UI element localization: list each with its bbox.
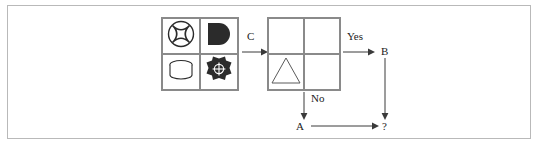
shape-grid-cell-top-right xyxy=(304,18,340,54)
half-disc-icon xyxy=(203,19,235,53)
edge-yes-arrow xyxy=(343,47,375,57)
edge-b-to-question-arrow xyxy=(380,58,390,120)
node-question: ? xyxy=(382,121,387,132)
edge-yes-label: Yes xyxy=(347,31,363,42)
shape-grid-cell-bottom-right xyxy=(304,54,340,90)
edge-c-label: C xyxy=(247,31,254,42)
edge-no-arrow xyxy=(299,92,309,120)
gear-target-icon xyxy=(204,56,234,88)
shape-grid-cell-top-left xyxy=(268,18,304,54)
triangle-icon xyxy=(270,55,302,89)
circle-x-icon xyxy=(166,19,196,53)
node-b: B xyxy=(381,46,388,57)
icon-grid-cell-top-right xyxy=(200,18,238,54)
shape-grid-cell-bottom-left xyxy=(268,54,304,90)
edge-a-to-question-arrow xyxy=(311,121,379,131)
edge-no-label: No xyxy=(311,93,324,104)
icon-grid-cell-top-left xyxy=(162,18,200,54)
cylinder-icon xyxy=(165,56,197,88)
node-a: A xyxy=(296,121,304,132)
diagram-canvas: C Yes B No A ? xyxy=(0,0,539,146)
edge-c-arrow xyxy=(242,47,268,57)
icon-grid xyxy=(161,17,239,91)
icon-grid-cell-bottom-left xyxy=(162,54,200,90)
shape-grid xyxy=(267,17,341,91)
icon-grid-cell-bottom-right xyxy=(200,54,238,90)
